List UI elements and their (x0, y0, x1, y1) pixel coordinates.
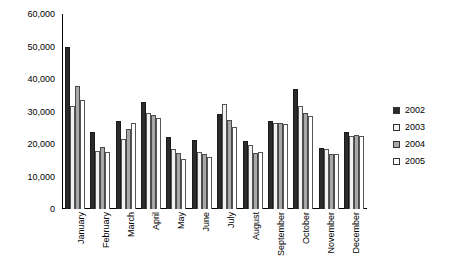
legend-item: 2002 (393, 106, 425, 115)
y-tick-label: 0 (0, 205, 55, 214)
bar-group (293, 14, 313, 209)
y-tick-label: 30,000 (0, 107, 55, 116)
x-tick-slot: June (190, 210, 214, 278)
x-tick-slot: October (290, 210, 314, 278)
y-tick-label: 10,000 (0, 172, 55, 181)
x-tick-label: February (102, 212, 111, 248)
legend-label: 2005 (405, 157, 425, 166)
x-tick-label: April (152, 212, 161, 230)
x-tick-label: October (302, 212, 311, 244)
y-tick-label: 50,000 (0, 42, 55, 51)
x-tick-slot: January (65, 210, 89, 278)
legend: 2002200320042005 (393, 106, 425, 166)
bar-group (268, 14, 288, 209)
legend-swatch-icon (393, 124, 400, 131)
bar-group (65, 14, 85, 209)
bar-group (319, 14, 339, 209)
legend-item: 2003 (393, 123, 425, 132)
legend-item: 2005 (393, 157, 425, 166)
x-tick-slot: September (265, 210, 289, 278)
bar-2005 (156, 118, 161, 209)
x-axis-labels: JanuaryFebruaryMarchAprilMayJuneJulyAugu… (62, 210, 367, 278)
plot-area (62, 14, 367, 209)
bar-2005 (232, 127, 237, 209)
bar-2005 (131, 123, 136, 209)
x-tick-label: September (277, 212, 286, 256)
x-tick-slot: May (165, 210, 189, 278)
x-tick-slot: March (115, 210, 139, 278)
x-tick-label: June (202, 212, 211, 232)
y-tick-label: 40,000 (0, 75, 55, 84)
bar-group (166, 14, 186, 209)
bar-2005 (308, 116, 313, 209)
bar-group (116, 14, 136, 209)
bar-group (243, 14, 263, 209)
x-tick-slot: February (90, 210, 114, 278)
bar-group (217, 14, 237, 209)
legend-label: 2003 (405, 123, 425, 132)
legend-label: 2004 (405, 140, 425, 149)
y-tick-label: 60,000 (0, 10, 55, 19)
legend-swatch-icon (393, 107, 400, 114)
x-tick-label: August (252, 212, 261, 240)
x-tick-slot: August (240, 210, 264, 278)
bar-group (192, 14, 212, 209)
x-tick-label: November (327, 212, 336, 254)
bar-group (141, 14, 161, 209)
bar-group (344, 14, 364, 209)
x-tick-slot: November (315, 210, 339, 278)
bar-2005 (258, 152, 263, 209)
x-tick-label: May (177, 212, 186, 229)
legend-swatch-icon (393, 158, 400, 165)
y-tick-label: 20,000 (0, 140, 55, 149)
x-tick-label: January (77, 212, 86, 244)
x-tick-slot: December (340, 210, 364, 278)
x-tick-label: July (227, 212, 236, 228)
x-tick-label: March (127, 212, 136, 237)
x-tick-label: December (352, 212, 361, 254)
bar-2005 (207, 157, 212, 209)
x-tick-slot: April (140, 210, 164, 278)
legend-swatch-icon (393, 141, 400, 148)
bar-chart: 60,00050,00040,00030,00020,00010,0000 Ja… (0, 0, 460, 278)
bar-group (90, 14, 110, 209)
bar-2005 (283, 124, 288, 209)
bar-2005 (181, 159, 186, 209)
bar-groups (62, 14, 367, 209)
legend-item: 2004 (393, 140, 425, 149)
bar-2005 (105, 152, 110, 209)
y-axis-labels: 60,00050,00040,00030,00020,00010,0000 (0, 14, 57, 209)
bar-2005 (80, 100, 85, 209)
legend-label: 2002 (405, 106, 425, 115)
bar-2005 (359, 136, 364, 209)
x-tick-slot: July (215, 210, 239, 278)
bar-2005 (334, 154, 339, 209)
